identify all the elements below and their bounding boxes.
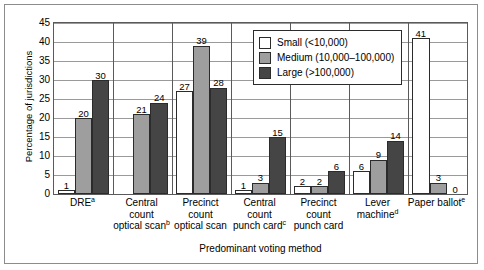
bar: 1 <box>58 190 75 194</box>
bar-value-label: 39 <box>196 36 207 46</box>
bar: 2 <box>311 186 328 194</box>
bar-value-label: 1 <box>64 181 69 191</box>
bar: 1 <box>235 190 252 194</box>
bar: 24 <box>150 103 168 194</box>
legend-swatch-medium <box>259 52 271 64</box>
bar-value-label: 14 <box>390 131 401 141</box>
bar-value-label: 21 <box>136 105 147 115</box>
bar-value-label: 30 <box>95 71 106 81</box>
x-axis-tick-label: Paper ballote <box>397 197 476 209</box>
chart-figure: Percentage of jurisdictions 051015202530… <box>4 4 478 264</box>
bar-value-label: 41 <box>416 29 427 39</box>
bar-group: 4130 <box>412 23 463 194</box>
plot-area: 051015202530354045 120302124273928131522… <box>53 22 468 195</box>
bar-value-label: 27 <box>179 82 190 92</box>
bar: 6 <box>353 171 370 194</box>
y-axis-tick-label: 15 <box>39 132 50 142</box>
bar-value-label: 28 <box>213 78 224 88</box>
bar-value-label: 15 <box>272 128 283 138</box>
bar-value-label: 3 <box>436 173 441 183</box>
bar-value-label: 2 <box>317 177 322 187</box>
y-axis-title: Percentage of jurisdictions <box>23 22 34 192</box>
bar: 39 <box>193 46 210 194</box>
y-axis-tick-label: 25 <box>39 94 50 104</box>
bar: 14 <box>387 141 404 194</box>
y-axis-tick-label: 5 <box>44 170 50 180</box>
legend-label-medium: Medium (10,000–100,000) <box>277 53 394 63</box>
bar: 21 <box>133 114 151 194</box>
y-axis-tick-label: 20 <box>39 113 50 123</box>
bar-value-label: 20 <box>78 109 89 119</box>
bar: 27 <box>176 91 193 194</box>
bar-value-label: 2 <box>300 177 305 187</box>
bar-group: 12030 <box>58 23 109 194</box>
bar-value-label: 24 <box>154 93 165 103</box>
x-axis-title: Predominant voting method <box>53 243 468 254</box>
bar: 15 <box>269 137 286 194</box>
bar-value-label: 0 <box>453 185 458 195</box>
legend: Small (<10,000) Medium (10,000–100,000) … <box>253 30 402 85</box>
bar-group: 2124 <box>117 23 168 194</box>
x-axis-tick-labels: DREaCentralcountoptical scanbPrecinctcou… <box>53 197 468 241</box>
bar-value-label: 6 <box>359 162 364 172</box>
bar-value-label: 9 <box>376 150 381 160</box>
legend-swatch-small <box>259 37 271 49</box>
bar: 6 <box>328 171 345 194</box>
legend-item: Small (<10,000) <box>259 35 394 50</box>
legend-label-small: Small (<10,000) <box>277 38 348 48</box>
bar: 41 <box>412 38 430 194</box>
bar: 28 <box>210 88 227 194</box>
bar: 2 <box>294 186 311 194</box>
y-axis-tick-label: 30 <box>39 75 50 85</box>
y-axis-tick-label: 40 <box>39 37 50 47</box>
bar-group: 273928 <box>176 23 227 194</box>
category-separator <box>172 23 173 194</box>
y-axis-tick-label: 45 <box>39 18 50 28</box>
legend-swatch-large <box>259 67 271 79</box>
bar-value-label: 6 <box>334 162 339 172</box>
legend-item: Large (>100,000) <box>259 65 394 80</box>
bar: 3 <box>252 183 269 194</box>
bar: 9 <box>370 160 387 194</box>
legend-label-large: Large (>100,000) <box>277 68 354 78</box>
bar-value-label: 3 <box>258 173 263 183</box>
bar: 3 <box>430 183 448 194</box>
y-axis-tick-label: 35 <box>39 56 50 66</box>
bar: 30 <box>92 80 109 194</box>
category-separator <box>408 23 409 194</box>
legend-item: Medium (10,000–100,000) <box>259 50 394 65</box>
y-axis-tick-label: 10 <box>39 151 50 161</box>
category-separator <box>113 23 114 194</box>
bar-value-label: 1 <box>241 181 246 191</box>
category-separator <box>231 23 232 194</box>
bar: 20 <box>75 118 92 194</box>
